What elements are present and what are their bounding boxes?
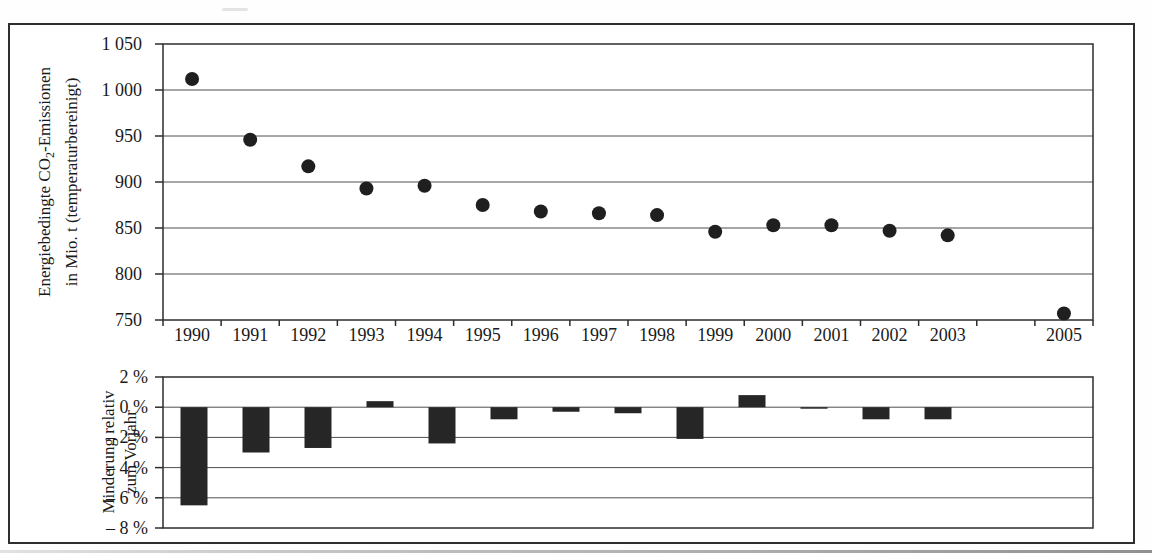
top-y-tick-label: 800 [115, 264, 142, 284]
bar-1993 [305, 407, 332, 448]
bar-1991 [181, 407, 208, 505]
bar-2002 [863, 407, 890, 419]
data-point-1998 [650, 208, 664, 222]
data-point-1991 [243, 133, 257, 147]
x-axis-label-1995: 1995 [465, 325, 501, 345]
data-point-2005 [1057, 307, 1071, 321]
co2-subscript: 2 [43, 152, 57, 158]
top-y-tick-label: 1 050 [102, 34, 143, 54]
bar-2000 [739, 395, 766, 407]
bottom-axis-title-line2: zum Vorjahr [120, 342, 142, 555]
data-point-1993 [359, 181, 373, 195]
bar-1999 [677, 407, 704, 439]
co2-emissions-chart: 1 0501 000950900850800750199019911992199… [0, 0, 1152, 555]
top-y-tick-label: 1 000 [102, 80, 143, 100]
x-axis-label-1994: 1994 [407, 325, 443, 345]
scan-artifact-bottom-rule [0, 550, 1152, 553]
top-y-tick-label: 900 [115, 172, 142, 192]
bottom-plot-border [163, 377, 1093, 528]
bottom-chart-y-axis-title: Minderung relativ zum Vorjahr [98, 342, 142, 555]
scan-artifact-top [222, 8, 248, 11]
data-point-2001 [824, 218, 838, 232]
data-point-2003 [941, 228, 955, 242]
x-axis-label-2003: 2003 [930, 325, 966, 345]
data-point-2002 [883, 224, 897, 238]
x-axis-label-1996: 1996 [523, 325, 559, 345]
top-y-tick-label: 750 [115, 310, 142, 330]
top-y-tick-label: 950 [115, 126, 142, 146]
x-axis-label-1998: 1998 [639, 325, 675, 345]
bar-1996 [491, 407, 518, 419]
top-axis-title-line1: Energiebedingte CO2-Emissionen [34, 22, 61, 342]
x-axis-label-2005: 2005 [1046, 325, 1082, 345]
bar-1992 [243, 407, 270, 452]
axis-title-text: Energiebedingte CO [35, 158, 54, 297]
x-axis-label-2001: 2001 [813, 325, 849, 345]
data-point-1997 [592, 206, 606, 220]
bar-1994 [367, 401, 394, 407]
data-point-1992 [301, 159, 315, 173]
axis-title-text: -Emissionen [35, 67, 54, 152]
x-axis-label-1990: 1990 [174, 325, 210, 345]
x-axis-label-2002: 2002 [872, 325, 908, 345]
top-axis-title-line2: in Mio. t (temperaturbereinigt) [61, 22, 83, 342]
x-axis-label-1999: 1999 [697, 325, 733, 345]
x-axis-label-1997: 1997 [581, 325, 617, 345]
x-axis-label-1991: 1991 [232, 325, 268, 345]
data-point-2000 [766, 218, 780, 232]
top-y-tick-label: 850 [115, 218, 142, 238]
top-chart-y-axis-title: Energiebedingte CO2-Emissionen in Mio. t… [34, 22, 78, 342]
bar-2003 [925, 407, 952, 419]
x-axis-label-2000: 2000 [755, 325, 791, 345]
bar-1995 [429, 407, 456, 443]
bar-2001 [801, 407, 828, 409]
bottom-axis-title-line1: Minderung relativ [98, 342, 120, 555]
data-point-1996 [534, 204, 548, 218]
bar-1998 [615, 407, 642, 413]
bar-1997 [553, 407, 580, 412]
data-point-1999 [708, 225, 722, 239]
data-point-1995 [476, 198, 490, 212]
data-point-1990 [185, 72, 199, 86]
x-axis-label-1992: 1992 [290, 325, 326, 345]
data-point-1994 [418, 179, 432, 193]
x-axis-label-1993: 1993 [348, 325, 384, 345]
